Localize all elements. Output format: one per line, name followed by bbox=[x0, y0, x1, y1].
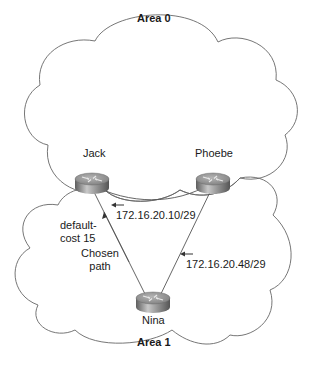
chosen-path-annotation: Chosen path bbox=[80, 247, 120, 273]
network-diagram bbox=[0, 0, 315, 368]
area0-label: Area 0 bbox=[137, 12, 177, 25]
router-label-phoebe: Phoebe bbox=[195, 147, 233, 160]
arrow-left-icon bbox=[180, 252, 193, 257]
arrow-left-icon bbox=[111, 203, 124, 208]
router-label-nina: Nina bbox=[142, 314, 165, 327]
default-cost-annotation: default- cost 15 bbox=[60, 219, 97, 245]
area0-cloud bbox=[24, 15, 297, 201]
router-icon-nina[interactable] bbox=[136, 292, 170, 313]
link-nina-phoebe bbox=[158, 188, 212, 300]
default-cost-line1: default- bbox=[60, 219, 97, 232]
subnet-label-jack: 172.16.20.10/29 bbox=[116, 209, 196, 222]
area1-label: Area 1 bbox=[137, 336, 177, 349]
router-icon-phoebe[interactable] bbox=[196, 173, 230, 194]
router-label-jack: Jack bbox=[83, 147, 106, 160]
subnet-label-phoebe: 172.16.20.48/29 bbox=[186, 258, 266, 271]
default-cost-line2: cost 15 bbox=[60, 232, 97, 245]
router-icon-jack[interactable] bbox=[75, 173, 109, 194]
chosen-path-line2: path bbox=[80, 260, 120, 273]
chosen-path-line1: Chosen bbox=[80, 247, 120, 260]
